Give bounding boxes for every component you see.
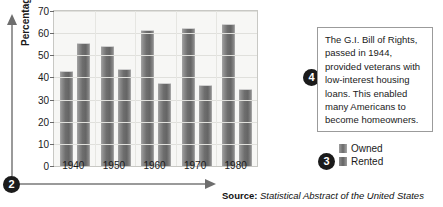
bar-group (99, 11, 132, 166)
annotation-note-box: The G.I. Bill of Rights, passed in 1944,… (317, 27, 433, 132)
source-line: Source: Statistical Abstract of the Unit… (222, 190, 424, 201)
source-value: Statistical Abstract of the United State… (260, 190, 424, 201)
y-gridline (54, 11, 257, 12)
y-gridline (54, 100, 257, 101)
x-gridline (95, 11, 96, 166)
bar-group (139, 11, 172, 166)
legend-label-rented: Rented (351, 156, 383, 167)
x-axis-arrow (12, 183, 205, 185)
bar-owned-1940 (60, 71, 73, 166)
y-axis-arrow (11, 24, 13, 176)
y-tick-mark (50, 144, 54, 145)
y-gridline (54, 55, 257, 56)
y-tick-label: 10 (23, 138, 49, 149)
y-tick-label: 70 (23, 6, 49, 17)
bar-rented-1970 (199, 85, 212, 166)
bar-owned-1960 (141, 30, 154, 166)
bar-rented-1940 (77, 43, 90, 166)
legend-label-owned: Owned (351, 143, 383, 154)
legend-item-owned[interactable]: Owned (339, 143, 409, 154)
y-gridline (54, 77, 257, 78)
y-tick-mark (50, 122, 54, 123)
y-tick-mark (50, 55, 54, 56)
bar-rented-1950 (118, 69, 131, 166)
y-tick-label: 50 (23, 50, 49, 61)
y-tick-mark (50, 11, 54, 12)
callout-bullet-3[interactable]: 3 (318, 153, 335, 170)
y-tick-label: 0 (23, 161, 49, 172)
x-gridline (176, 11, 177, 166)
bars-container (54, 11, 257, 166)
y-tick-mark (50, 100, 54, 101)
y-gridline (54, 33, 257, 34)
figure-root: 2 3 4 Percentage 010203040506070 Owned R… (0, 0, 443, 207)
y-tick-label: 40 (23, 72, 49, 83)
bar-owned-1950 (101, 46, 114, 166)
y-gridline (54, 122, 257, 123)
x-gridline (216, 11, 217, 166)
bar-group (220, 11, 253, 166)
legend-swatch-owned-icon (339, 144, 347, 153)
annotation-note-text: The G.I. Bill of Rights, passed in 1944,… (325, 33, 426, 127)
bar-group (180, 11, 213, 166)
y-tick-label: 30 (23, 94, 49, 105)
y-tick-label: 60 (23, 28, 49, 39)
y-gridline (54, 144, 257, 145)
legend-item-rented[interactable]: Rented (339, 156, 409, 167)
bar-owned-1970 (182, 28, 195, 166)
chart-plot-area: 010203040506070 (53, 10, 258, 167)
y-tick-mark (50, 33, 54, 34)
chart-legend: Owned Rented (339, 143, 409, 169)
bar-rented-1960 (158, 83, 171, 166)
source-label: Source: (222, 190, 257, 201)
y-tick-label: 20 (23, 116, 49, 127)
y-tick-mark (50, 77, 54, 78)
legend-swatch-rented-icon (339, 157, 347, 166)
bar-group (58, 11, 91, 166)
x-gridline (135, 11, 136, 166)
callout-bullet-2[interactable]: 2 (3, 176, 20, 193)
x-tick-label: 1980 (211, 160, 261, 171)
